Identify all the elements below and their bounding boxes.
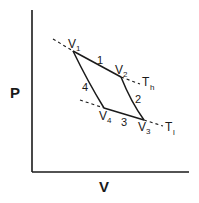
- svg-text:l: l: [173, 128, 175, 137]
- isotherm-tl-right: [144, 120, 163, 126]
- svg-text:V: V: [115, 63, 123, 77]
- pv-diagram: P V V 1 V 2 V 3 V 4 1 2 3 4 T h T l: [0, 0, 199, 203]
- isotherm-label-tl: T l: [165, 120, 175, 137]
- segment-label-2: 2: [135, 93, 141, 105]
- svg-text:T: T: [142, 75, 150, 89]
- svg-text:4: 4: [107, 116, 112, 125]
- segment-label-4: 4: [82, 81, 88, 93]
- svg-text:2: 2: [123, 70, 128, 79]
- x-axis-label: V: [99, 178, 109, 195]
- svg-text:V: V: [99, 109, 107, 123]
- y-axis-label: P: [10, 84, 20, 101]
- vertex-label-v2: V 2: [115, 63, 128, 79]
- svg-text:h: h: [150, 83, 154, 92]
- vertex-label-v4: V 4: [99, 109, 112, 125]
- svg-text:V: V: [68, 37, 76, 51]
- svg-text:V: V: [138, 120, 146, 134]
- segment-label-1: 1: [97, 54, 103, 66]
- segment-label-3: 3: [121, 116, 127, 128]
- svg-text:T: T: [165, 120, 173, 134]
- svg-text:1: 1: [76, 44, 81, 53]
- isotherm-label-th: T h: [142, 75, 154, 92]
- svg-text:3: 3: [146, 127, 151, 136]
- vertex-label-v1: V 1: [68, 37, 81, 53]
- vertex-label-v3: V 3: [138, 120, 151, 136]
